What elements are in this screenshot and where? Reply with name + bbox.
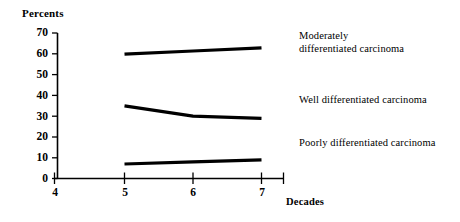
series-label-moderately-differentiated: Moderately differentiated carcinoma: [299, 30, 404, 55]
chart-figure: Percents: [0, 0, 460, 222]
y-tick-marks: [52, 33, 58, 179]
series-line-moderately-differentiated: [125, 48, 262, 54]
y-tick-label-40: 40: [22, 90, 48, 101]
y-tick-label-20: 20: [22, 131, 48, 142]
series-line-well-differentiated: [125, 106, 262, 119]
x-tick-label-7: 7: [251, 187, 273, 198]
series-line-poorly-differentiated: [125, 160, 262, 164]
x-tick-label-4: 4: [44, 187, 66, 198]
y-tick-label-70: 70: [22, 27, 48, 38]
series-label-well-differentiated: Well differentiated carcinoma: [299, 94, 427, 107]
y-tick-label-10: 10: [22, 152, 48, 163]
y-tick-label-60: 60: [22, 48, 48, 59]
x-axis-title: Decades: [286, 196, 324, 207]
y-tick-label-50: 50: [22, 69, 48, 80]
y-tick-label-0: 0: [22, 173, 48, 184]
x-tick-label-6: 6: [182, 187, 204, 198]
y-tick-label-30: 30: [22, 111, 48, 122]
series-label-poorly-differentiated: Poorly differentiated carcinoma: [299, 137, 435, 150]
x-tick-label-5: 5: [114, 187, 136, 198]
